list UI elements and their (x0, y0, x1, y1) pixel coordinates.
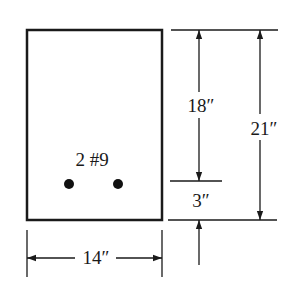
effective-depth-label: 18″ (188, 95, 215, 116)
total-height-dimension: 21″ (251, 30, 278, 220)
beam-section-outline (27, 30, 162, 220)
total-height-label: 21″ (251, 118, 278, 139)
cover-dimension: 3″ (192, 190, 209, 265)
rebar-left (64, 179, 74, 189)
beam-cross-section-diagram: 2 #9 18″ 21″ 3″ 14″ (0, 0, 301, 285)
rebar-group (64, 179, 123, 189)
width-label: 14″ (83, 247, 110, 268)
rebar-right (113, 179, 123, 189)
width-dimension: 14″ (27, 230, 162, 277)
effective-depth-dimension: 18″ (188, 30, 215, 181)
cover-label: 3″ (192, 190, 209, 211)
rebar-label: 2 #9 (75, 149, 108, 170)
